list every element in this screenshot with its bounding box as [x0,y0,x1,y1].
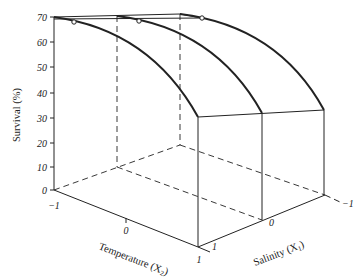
temp-tick: 1 [197,254,202,265]
marker [72,20,76,24]
salinity-axis-title: Salinity (X1) [252,238,307,269]
z-tick: 30 [36,113,47,124]
z-tick: 70 [37,12,47,23]
temp-tick: 0 [124,225,129,236]
z-tick: 60 [37,37,47,48]
temp-tick: −1 [48,200,60,211]
z-axis-title: Survival (%) [11,88,23,142]
marker [137,19,141,23]
hidden-edges [54,14,325,220]
z-tick: 10 [37,162,47,173]
z-tick: 20 [37,138,47,149]
sal-tick: −1 [342,198,354,209]
z-tick: 0 [42,185,47,196]
sal-tick: 0 [269,217,274,228]
temperature-axis-title: Temperature (X2) [97,241,171,279]
marker [200,16,204,20]
response-surface-chart: 70 60 50 40 30 20 10 0 Survival (%) −1 0… [0,0,360,279]
sal-tick: 1 [212,241,217,252]
z-tick: 50 [37,62,47,73]
z-tick: 40 [37,88,47,99]
